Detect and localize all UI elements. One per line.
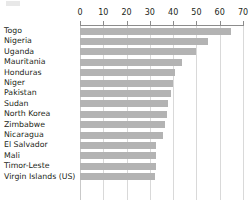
bar-row: Nicaragua: [0, 130, 250, 140]
bar-row: Pakistan: [0, 88, 250, 98]
bar: [80, 152, 156, 159]
bar-category-label: Honduras: [4, 68, 80, 78]
bar-row: Zimbabwe: [0, 120, 250, 130]
bar-category-label: El Salvador: [4, 140, 80, 150]
crop-artifact: [6, 1, 20, 6]
bar-row: Mali: [0, 151, 250, 161]
bar-category-label: Zimbabwe: [4, 120, 80, 130]
axis-tick-label: 60: [215, 8, 225, 18]
bar-chart: 010203040506070 TogoNigeriaUgandaMaurita…: [0, 0, 250, 210]
axis-tick-label: 70: [238, 8, 248, 18]
bar-category-label: Virgin Islands (US): [4, 172, 80, 182]
bar-category-label: Nigeria: [4, 36, 80, 46]
bar-row: Mauritania: [0, 57, 250, 67]
bar: [80, 80, 173, 87]
bar-category-label: Togo: [4, 26, 80, 36]
bar: [80, 100, 168, 107]
bar-category-label: North Korea: [4, 109, 80, 119]
bar-category-label: Mali: [4, 151, 80, 161]
axis-tick-label: 10: [98, 8, 108, 18]
bar-row: Togo: [0, 26, 250, 36]
bar-category-label: Uganda: [4, 47, 80, 57]
bar-category-label: Sudan: [4, 99, 80, 109]
axis-tick-label: 0: [77, 8, 82, 18]
bar: [80, 111, 167, 118]
bar-rows: TogoNigeriaUgandaMauritaniaHondurasNiger…: [0, 26, 250, 200]
bar-category-label: Timor-Leste: [4, 161, 80, 171]
bar-row: Nigeria: [0, 36, 250, 46]
bar-category-label: Mauritania: [4, 57, 80, 67]
bar-row: Honduras: [0, 68, 250, 78]
bar: [80, 28, 231, 35]
bar: [80, 121, 165, 128]
bar: [80, 173, 155, 180]
bar: [80, 48, 196, 55]
bar-row: Sudan: [0, 99, 250, 109]
bar: [80, 163, 156, 170]
bar-row: El Salvador: [0, 140, 250, 150]
bar-row: Timor-Leste: [0, 161, 250, 171]
axis-tick-label: 40: [168, 8, 178, 18]
axis-tick-label: 50: [191, 8, 201, 18]
bar-row: North Korea: [0, 109, 250, 119]
bar-category-label: Pakistan: [4, 88, 80, 98]
bar: [80, 69, 175, 76]
bar-row: Virgin Islands (US): [0, 172, 250, 182]
axis-tick-label: 20: [121, 8, 131, 18]
bar: [80, 132, 163, 139]
bar: [80, 90, 171, 97]
bar: [80, 142, 156, 149]
axis-tick-label: 30: [145, 8, 155, 18]
bar-row: Uganda: [0, 47, 250, 57]
bar: [80, 59, 182, 66]
bar-category-label: Niger: [4, 78, 80, 88]
bar-row: Niger: [0, 78, 250, 88]
bar: [80, 38, 208, 45]
x-axis-tick-labels: 010203040506070: [0, 8, 250, 20]
bar-category-label: Nicaragua: [4, 130, 80, 140]
